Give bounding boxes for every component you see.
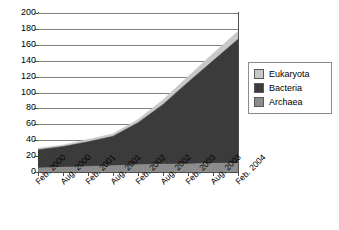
y-axis-tick-label: 100 (2, 88, 36, 97)
x-axis-tick-mark (138, 172, 139, 176)
x-axis-tick-mark (63, 172, 64, 176)
x-axis-tick-mark (113, 172, 114, 176)
x-axis-tick-mark (88, 172, 89, 176)
x-axis-tick-mark (188, 172, 189, 176)
legend-swatch-icon (254, 69, 264, 79)
legend-swatch-icon (254, 83, 264, 93)
plot-right-border (238, 12, 239, 173)
x-axis-labels: Feb. 2000Aug. 2000Feb. 2001Aug. 2001Feb.… (0, 172, 339, 230)
y-axis-tick-label: 200 (2, 8, 36, 17)
x-axis-tick-mark (238, 172, 239, 176)
plot-area (38, 13, 238, 172)
legend-item[interactable]: Bacteria (254, 81, 327, 95)
y-axis-tick-label: 80 (2, 103, 36, 112)
x-axis-tick-mark (38, 172, 39, 176)
stacked-area-series (38, 13, 238, 172)
legend-item-label: Bacteria (269, 84, 302, 93)
x-axis-tick-mark (213, 172, 214, 176)
y-axis-tick-label: 120 (2, 72, 36, 81)
y-axis-tick-label: 40 (2, 135, 36, 144)
legend-item[interactable]: Eukaryota (254, 67, 327, 81)
chart-screenshot: 200180160140120100806040200 Feb. 2000Aug… (0, 0, 339, 230)
legend-swatch-icon (254, 97, 264, 107)
y-axis-tick-label: 140 (2, 56, 36, 65)
x-axis-tick-mark (163, 172, 164, 176)
y-axis-tick-label: 20 (2, 151, 36, 160)
legend-item-label: Archaea (269, 98, 303, 107)
legend-item[interactable]: Archaea (254, 95, 327, 109)
y-axis-tick-label: 180 (2, 24, 36, 33)
legend-item-label: Eukaryota (269, 70, 310, 79)
y-axis-tick-label: 60 (2, 119, 36, 128)
y-axis-tick-label: 160 (2, 40, 36, 49)
chart-legend: EukaryotaBacteriaArchaea (248, 62, 332, 114)
